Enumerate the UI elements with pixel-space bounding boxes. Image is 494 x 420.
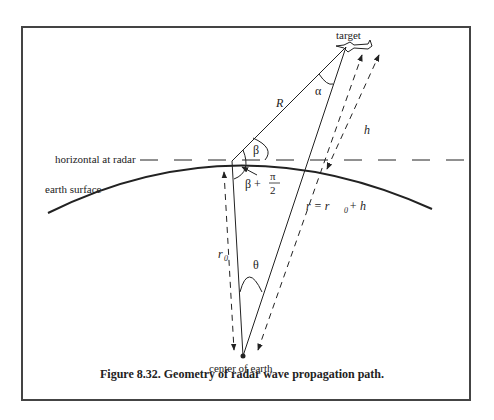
range-label: R xyxy=(275,96,284,110)
beta-label: β xyxy=(253,143,259,157)
r0-label: r xyxy=(218,247,223,261)
aircraft-icon xyxy=(336,40,372,52)
pi-label: π xyxy=(270,170,276,182)
center-to-target-line xyxy=(243,47,346,356)
r-equation-tail: + h xyxy=(349,199,366,213)
radar-geometry-diagram: target R α β β + π 2 h horizontal at rad… xyxy=(0,0,494,420)
h-dimension-arrow xyxy=(327,55,379,169)
theta-label: θ xyxy=(253,258,259,272)
figure-caption: Figure 8.32. Geometry of radar wave prop… xyxy=(100,367,384,381)
r0-sub: 0 xyxy=(224,254,228,263)
center-of-earth-point xyxy=(241,354,246,359)
alpha-label: α xyxy=(315,84,322,98)
two-label: 2 xyxy=(270,184,276,196)
r-equation-label: r = r xyxy=(306,199,330,213)
horizontal-label: horizontal at radar xyxy=(55,153,136,165)
beta-plus-label: β + xyxy=(245,177,261,191)
theta-arc xyxy=(240,277,262,292)
range-line xyxy=(232,47,346,161)
figure-frame xyxy=(22,27,470,400)
earth-surface-label: earth surface xyxy=(45,183,102,195)
target-label: target xyxy=(336,29,361,41)
alpha-arc xyxy=(319,74,333,84)
earth-surface-curve xyxy=(48,165,432,213)
height-label: h xyxy=(364,123,370,137)
r-equation-sub: 0 xyxy=(344,206,348,215)
radar-to-center-line xyxy=(232,161,243,356)
